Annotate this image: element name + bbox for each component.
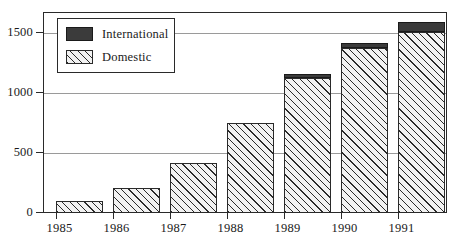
ytick-label-1500: 1500 xyxy=(7,26,33,39)
bar-segment-international xyxy=(398,22,445,32)
xtick-label-1991: 1991 xyxy=(378,222,425,235)
xtick-mark-1986 xyxy=(113,213,114,219)
ytick-label-1000: 1000 xyxy=(7,86,33,99)
xtick-label-1988: 1988 xyxy=(207,222,254,235)
xtick-mark-1988 xyxy=(227,213,228,219)
chart-legend: International Domestic xyxy=(57,18,175,73)
bar-segment-domestic xyxy=(56,201,103,213)
xtick-label-1990: 1990 xyxy=(321,222,368,235)
xtick-mark-1990 xyxy=(341,213,342,219)
bar-chart: 1500 1000 500 0 xyxy=(0,0,456,246)
bar-segment-international xyxy=(284,74,331,78)
ytick-label-500: 500 xyxy=(14,146,33,159)
bar-segment-domestic xyxy=(398,32,445,213)
xtick-label-1987: 1987 xyxy=(150,222,197,235)
bar-segment-domestic xyxy=(113,188,160,213)
bar-segment-domestic xyxy=(284,78,331,213)
xtick-mark-1987 xyxy=(170,213,171,219)
legend-label-domestic: Domestic xyxy=(102,50,152,64)
xtick-label-1989: 1989 xyxy=(264,222,311,235)
bar-segment-domestic xyxy=(341,48,388,213)
bar-segment-domestic xyxy=(227,123,274,213)
xtick-mark-1989 xyxy=(284,213,285,219)
ytick-label-0: 0 xyxy=(27,206,33,219)
legend-swatch-domestic-icon xyxy=(66,50,93,64)
bar-segment-domestic xyxy=(170,163,217,213)
legend-label-international: International xyxy=(102,27,168,41)
legend-swatch-international-icon xyxy=(66,27,93,41)
xtick-mark-1991 xyxy=(398,213,399,219)
xtick-label-1985: 1985 xyxy=(36,222,83,235)
bar-segment-international xyxy=(341,43,388,48)
xtick-label-1986: 1986 xyxy=(93,222,140,235)
xtick-mark-1985 xyxy=(56,213,57,219)
